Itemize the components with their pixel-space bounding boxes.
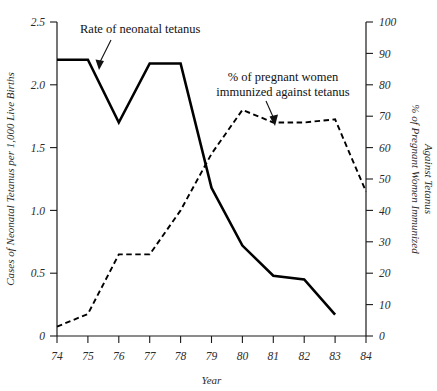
annotation-immunization-label-line1: % of pregnant women bbox=[228, 70, 339, 84]
x-tick-label-8: 82 bbox=[298, 350, 310, 362]
annotation-rate-of-neonatal-tetanus: Rate of neonatal tetanus bbox=[80, 22, 201, 70]
annotation-rate-leader-line bbox=[100, 40, 111, 62]
y-right-tick-label-10: 100 bbox=[379, 16, 397, 28]
annotation-pregnant-women-immunized: % of pregnant women immunized against te… bbox=[216, 70, 349, 126]
x-tick-label-3: 77 bbox=[144, 350, 157, 362]
x-tick-label-10: 84 bbox=[360, 350, 372, 362]
annotation-immunization-arrow-head bbox=[270, 115, 279, 127]
x-axis-ticks: 74 75 76 77 78 79 80 81 82 83 84 bbox=[51, 336, 372, 362]
y-right-tick-label-4: 40 bbox=[379, 205, 391, 217]
y-left-tick-label-3: 1.5 bbox=[31, 142, 46, 154]
dual-axis-line-chart: 0 0.5 1.0 1.5 2.0 2.5 0 10 20 30 40 50 bbox=[0, 0, 437, 391]
y-right-tick-label-9: 90 bbox=[379, 48, 391, 60]
y-left-tick-label-4: 2.0 bbox=[31, 79, 46, 91]
y-right-tick-label-8: 80 bbox=[379, 79, 391, 91]
y-left-tick-label-1: 0.5 bbox=[31, 267, 46, 279]
y-axis-right-ticks: 0 10 20 30 40 50 60 70 80 90 100 bbox=[366, 16, 397, 342]
y-left-tick-label-0: 0 bbox=[39, 330, 45, 342]
y-right-tick-label-1: 10 bbox=[379, 299, 391, 311]
annotation-immunization-label-line2: immunized against tetanus bbox=[216, 85, 349, 99]
series-line-immunization-dashed bbox=[57, 110, 366, 327]
x-tick-label-9: 83 bbox=[329, 350, 341, 362]
annotation-rate-arrow-head bbox=[96, 60, 105, 71]
y-right-tick-label-7: 70 bbox=[379, 110, 391, 122]
y-axis-right-title-line1: % of Pregnant Women Immunized bbox=[410, 104, 422, 254]
x-tick-label-6: 80 bbox=[237, 350, 249, 362]
x-tick-label-0: 74 bbox=[51, 350, 63, 362]
x-tick-label-7: 81 bbox=[268, 350, 280, 362]
y-axis-left-ticks: 0 0.5 1.0 1.5 2.0 2.5 bbox=[31, 16, 57, 342]
y-right-tick-label-5: 50 bbox=[379, 173, 391, 185]
x-tick-label-4: 78 bbox=[175, 350, 187, 362]
y-right-tick-label-3: 30 bbox=[378, 236, 391, 248]
x-tick-label-5: 79 bbox=[206, 350, 218, 362]
y-axis-left-title: Cases of Neonatal Tetanus per 1,000 Live… bbox=[4, 72, 16, 286]
y-axis-right-title-line2: Against Tetanus bbox=[423, 143, 435, 214]
y-left-tick-label-5: 2.5 bbox=[31, 16, 46, 28]
annotation-rate-label: Rate of neonatal tetanus bbox=[80, 22, 201, 36]
y-left-tick-label-2: 1.0 bbox=[31, 205, 46, 217]
y-right-tick-label-6: 60 bbox=[379, 142, 391, 154]
y-right-tick-label-2: 20 bbox=[379, 267, 391, 279]
y-right-tick-label-0: 0 bbox=[379, 330, 385, 342]
x-tick-label-2: 76 bbox=[113, 350, 125, 362]
x-tick-label-1: 75 bbox=[82, 350, 94, 362]
x-axis-title: Year bbox=[202, 374, 222, 386]
chart-container: 0 0.5 1.0 1.5 2.0 2.5 0 10 20 30 40 50 bbox=[0, 0, 437, 391]
